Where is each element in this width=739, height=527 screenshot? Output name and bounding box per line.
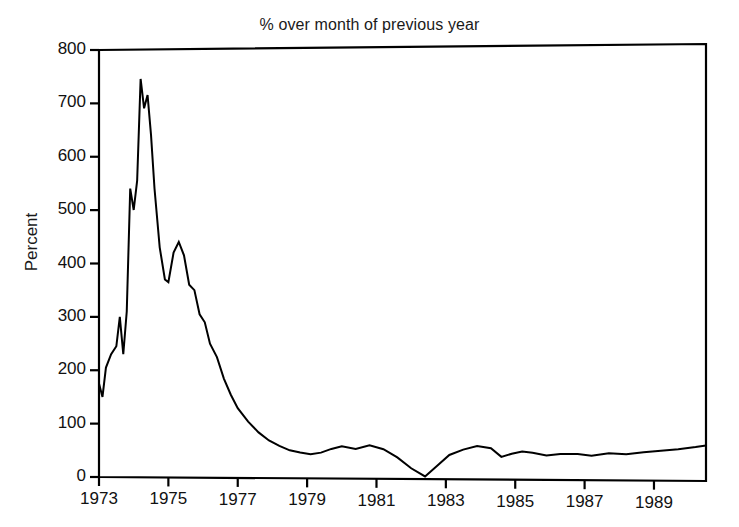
axes-frame [99,44,706,481]
plot-canvas [0,0,739,527]
axis-tick-marks [90,50,654,490]
chart-figure: % over month of previous year Percent 01… [0,0,739,527]
data-series-line [99,79,706,476]
